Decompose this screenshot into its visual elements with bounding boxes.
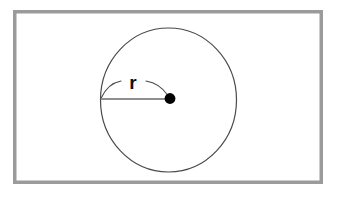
center-dot	[165, 93, 176, 104]
circle-radius-diagram: r	[0, 0, 339, 200]
radius-label: r	[129, 72, 137, 93]
figure-container: r	[0, 0, 339, 200]
